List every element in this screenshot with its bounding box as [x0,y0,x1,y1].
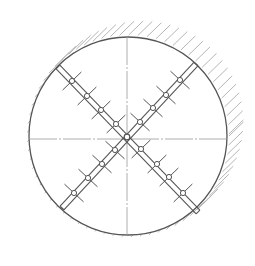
hatch-line [32,155,46,169]
joint-circle [138,146,143,151]
center-joint [124,134,130,140]
hatch-line [110,23,124,37]
bar-end-cap [196,210,200,214]
hatch-line [202,53,216,67]
hatch-line [78,210,92,224]
hatch-line [50,186,64,200]
hatch-line [45,179,59,193]
joint-circle [99,161,104,166]
hatch-line [166,215,180,229]
hatch-line [70,205,84,219]
hatch-line [229,122,243,136]
joint-circle [113,121,118,126]
joint-circle [154,161,159,166]
joint-circle [84,93,89,98]
joint-circle [180,190,185,195]
joint-circle [112,147,117,152]
hatch-line [227,140,241,154]
hatch-line [190,202,204,216]
hatch-line [218,76,232,90]
tunnel-section-diagram [0,0,255,266]
hatch-line [225,149,239,163]
hatch-line [213,68,227,82]
hatch-line [225,93,239,107]
hatch-line [102,25,116,39]
hatch-line [222,84,236,98]
hatch-line [95,217,109,231]
hatch-line [208,60,222,74]
hatch-line [86,214,100,228]
hatch-line [189,41,203,55]
joint-circle [150,105,155,110]
hatch-line [120,21,134,35]
hatch-line [40,171,54,185]
joint-circle [98,107,103,112]
bar-end-cap [194,62,198,66]
joint-circle [166,174,171,179]
joint-circle [163,92,168,97]
hatch-line [156,25,170,39]
joint-circle [85,175,90,180]
hatch-line [196,47,210,61]
hatch-line [36,163,50,177]
joint-circle [71,190,76,195]
hatch-line [229,131,243,145]
hatch-line [181,36,195,50]
joint-circle [177,77,182,82]
hatch-line [197,196,211,210]
joint-circle [137,119,142,124]
cross-bracing [56,62,200,214]
joint-circle [69,78,74,83]
ground-hatching [27,21,243,237]
hatch-line [165,28,179,42]
hatch-line [173,32,187,46]
